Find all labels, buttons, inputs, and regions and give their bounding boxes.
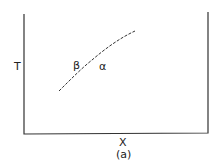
alpha-region-label: α xyxy=(99,61,106,72)
x-axis-label: X xyxy=(119,137,127,148)
y-axis-label: T xyxy=(14,61,21,72)
diagram-canvas xyxy=(0,0,219,168)
phase-boundary-curve xyxy=(59,31,135,91)
figure-caption: (a) xyxy=(116,149,131,160)
axes-frame xyxy=(24,12,208,134)
beta-region-label: β xyxy=(73,60,80,71)
